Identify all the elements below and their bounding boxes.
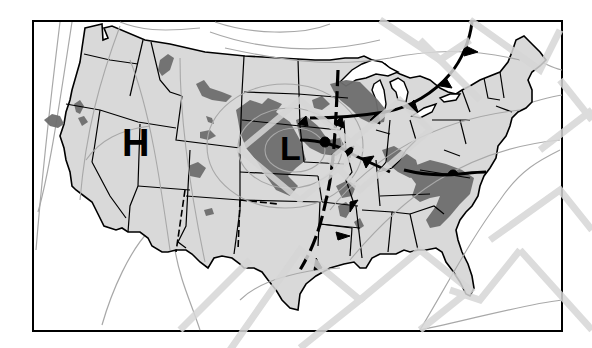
warm-front-semicircle: [320, 137, 330, 147]
weather-map: H L: [0, 0, 592, 348]
high-pressure-label: H: [122, 122, 149, 164]
low-pressure-label: L: [280, 129, 301, 167]
